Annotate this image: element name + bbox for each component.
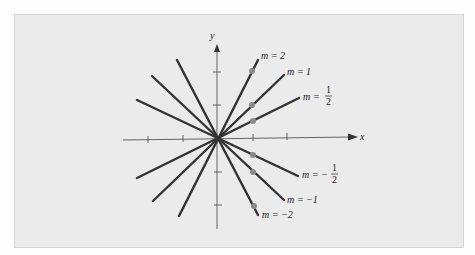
label-m-half-den: 2 xyxy=(326,96,331,107)
y-axis-arrow-icon xyxy=(214,44,220,52)
slope-chart: y x m = 2 m = 1 m = 1 2 m = − 1 2 xyxy=(0,0,475,255)
label-m-neg-2: m = −2 xyxy=(262,209,293,220)
point-m-1 xyxy=(249,102,255,108)
y-axis-label: y xyxy=(209,30,215,41)
point-m-2 xyxy=(249,68,255,74)
label-m-neg-half: m = − xyxy=(302,169,328,180)
label-m-2: m = 2 xyxy=(261,50,285,61)
label-m-neg-half-den: 2 xyxy=(332,174,337,185)
point-m-half xyxy=(250,118,256,124)
point-m-neg-half xyxy=(250,152,256,158)
x-axis-arrow-icon xyxy=(348,134,358,141)
label-m-half-num: 1 xyxy=(326,84,331,95)
point-m-neg-2 xyxy=(251,203,257,209)
slope-labels: m = 2 m = 1 m = 1 2 m = − 1 2 m = −1 m =… xyxy=(261,50,338,220)
point-m-neg-1 xyxy=(250,169,256,175)
label-m-neg-1: m = −1 xyxy=(287,194,318,205)
label-m-neg-half-num: 1 xyxy=(332,162,337,173)
x-axis-label: x xyxy=(359,131,365,142)
label-m-1: m = 1 xyxy=(287,66,311,77)
x-axis xyxy=(123,137,352,140)
label-m-half: m = xyxy=(303,91,319,102)
